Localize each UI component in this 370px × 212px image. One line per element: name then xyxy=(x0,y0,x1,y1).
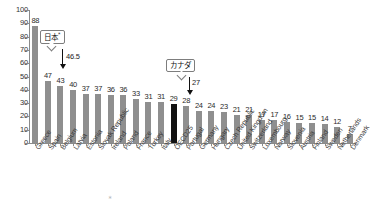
annotation-japan-value: 46.5 xyxy=(66,53,80,61)
annotation-japan-arrow-stem xyxy=(62,49,63,65)
footnote-text xyxy=(6,200,354,210)
annotation-canada-value: 27 xyxy=(192,79,200,87)
annotation-canada-label: カナダ xyxy=(170,61,191,70)
bar-rect xyxy=(171,104,177,143)
bar-value-label: 88 xyxy=(25,17,45,25)
annotation-canada-arrow-head xyxy=(187,90,193,95)
annotation-japan-superscript: * xyxy=(58,31,61,37)
annotation-canada-arrow-stem xyxy=(189,77,190,91)
bar-rect xyxy=(32,26,38,143)
bars-group: 8847434037373636333131292824242321211717… xyxy=(29,10,356,143)
y-tick-mark xyxy=(25,143,29,144)
x-axis-labels: GreeceSpainBelgiumLatviaEstoniaSlovak Re… xyxy=(29,147,356,205)
annotation-japan-arrow-head xyxy=(60,64,66,69)
